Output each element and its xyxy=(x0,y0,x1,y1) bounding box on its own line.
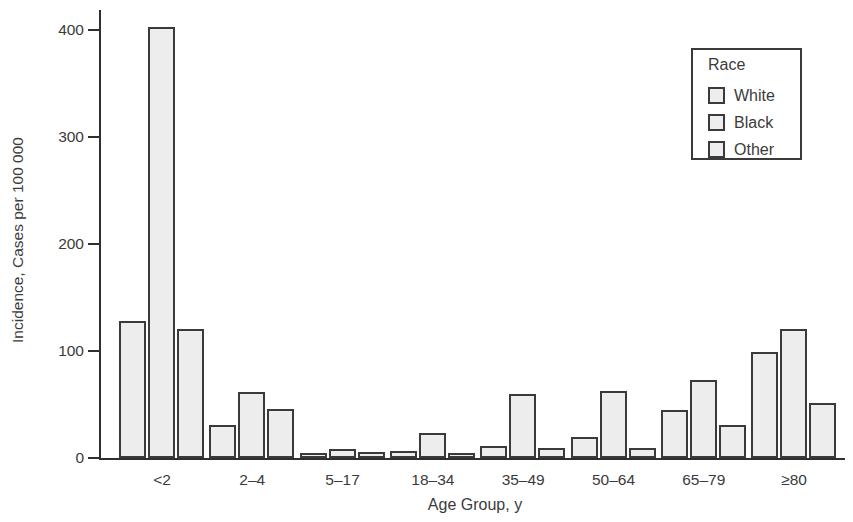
y-tick-mark xyxy=(88,350,99,352)
legend-item-label: Other xyxy=(734,141,774,158)
legend-item-white: White xyxy=(708,82,775,109)
x-axis-title: Age Group, y xyxy=(395,495,555,515)
bar-white-group3 xyxy=(390,451,417,458)
y-tick-label: 0 xyxy=(36,449,84,467)
legend: Race WhiteBlackOther xyxy=(691,48,802,160)
legend-swatch-other xyxy=(708,141,725,158)
y-tick-mark xyxy=(88,136,99,138)
y-tick-mark xyxy=(88,243,99,245)
legend-item-label: White xyxy=(734,87,775,104)
x-tick-label: ≥80 xyxy=(749,471,839,489)
bar-other-group1 xyxy=(267,409,294,458)
bar-white-group2 xyxy=(300,453,327,458)
legend-swatch-white xyxy=(708,87,725,104)
bar-black-group7 xyxy=(780,329,807,458)
bar-other-group7 xyxy=(809,403,836,458)
y-tick-label: 300 xyxy=(36,128,84,146)
bar-other-group2 xyxy=(358,452,385,458)
x-tick-label: <2 xyxy=(117,471,207,489)
bar-other-group6 xyxy=(719,425,746,458)
x-tick-label: 18–34 xyxy=(388,471,478,489)
incidence-bar-chart: Incidence, Cases per 100 000 01002003004… xyxy=(0,0,853,522)
bar-black-group5 xyxy=(600,391,627,458)
y-axis xyxy=(99,10,101,460)
y-tick-mark xyxy=(88,29,99,31)
x-tick-label: 50–64 xyxy=(569,471,659,489)
bar-black-group1 xyxy=(238,392,265,458)
bar-other-group4 xyxy=(538,448,565,458)
y-tick-label: 400 xyxy=(36,21,84,39)
bar-other-group3 xyxy=(448,453,475,458)
legend-swatch-black xyxy=(708,114,725,131)
legend-item-other: Other xyxy=(708,136,775,163)
legend-item-label: Black xyxy=(734,114,773,131)
bar-black-group0 xyxy=(148,27,175,458)
x-tick-label: 2–4 xyxy=(207,471,297,489)
bar-black-group3 xyxy=(419,433,446,458)
bar-white-group6 xyxy=(661,410,688,458)
bar-white-group1 xyxy=(209,425,236,458)
bar-white-group7 xyxy=(751,352,778,458)
legend-item-black: Black xyxy=(708,109,775,136)
x-axis xyxy=(99,458,845,460)
x-tick-label: 35–49 xyxy=(478,471,568,489)
bar-white-group5 xyxy=(571,437,598,458)
bar-other-group5 xyxy=(629,448,656,458)
y-tick-mark xyxy=(88,457,99,459)
x-tick-label: 65–79 xyxy=(659,471,749,489)
legend-title: Race xyxy=(708,56,745,74)
bar-black-group2 xyxy=(329,449,356,458)
bar-white-group0 xyxy=(119,321,146,458)
legend-items: WhiteBlackOther xyxy=(708,82,775,163)
bar-black-group4 xyxy=(509,394,536,458)
x-tick-label: 5–17 xyxy=(298,471,388,489)
y-axis-title: Incidence, Cases per 100 000 xyxy=(8,100,28,380)
bar-other-group0 xyxy=(177,329,204,458)
y-tick-label: 100 xyxy=(36,342,84,360)
bar-black-group6 xyxy=(690,380,717,458)
y-tick-label: 200 xyxy=(36,235,84,253)
bar-white-group4 xyxy=(480,446,507,458)
